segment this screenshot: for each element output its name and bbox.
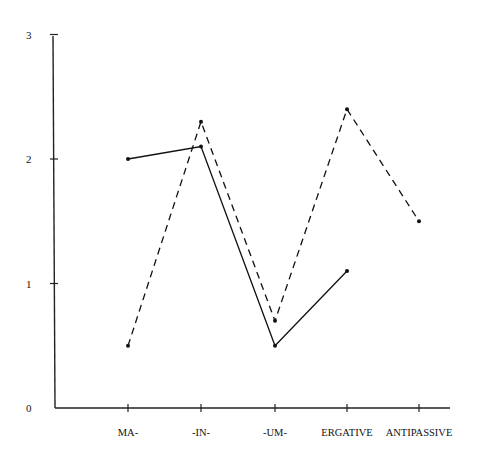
data-point [199, 120, 203, 124]
data-point [417, 219, 421, 223]
data-point [126, 344, 130, 348]
x-category-label: -IN- [192, 427, 211, 438]
line-chart: 0123 MA--IN--UM-ERGATIVEANTIPASSIVE [0, 0, 478, 455]
y-tick-label: 1 [26, 278, 32, 290]
x-category-label: ERGATIVE [321, 427, 372, 438]
data-point [345, 269, 349, 273]
y-tick-label: 3 [26, 29, 32, 41]
y-axis [53, 36, 55, 408]
x-ticks: MA--IN--UM-ERGATIVEANTIPASSIVE [118, 404, 453, 438]
x-category-label: ANTIPASSIVE [386, 427, 453, 438]
series-dashed [128, 109, 419, 346]
series-solid [128, 147, 347, 346]
y-tick-label: 0 [26, 402, 32, 414]
series-lines [126, 107, 421, 348]
y-tick-label: 2 [26, 153, 32, 165]
data-point [126, 157, 130, 161]
x-category-label: -UM- [263, 427, 287, 438]
data-point [199, 145, 203, 149]
x-category-label: MA- [118, 427, 139, 438]
data-point [345, 107, 349, 111]
data-point [273, 319, 277, 323]
data-point [273, 344, 277, 348]
